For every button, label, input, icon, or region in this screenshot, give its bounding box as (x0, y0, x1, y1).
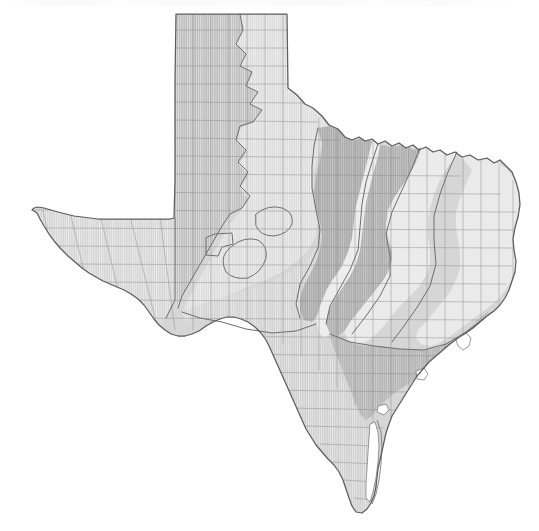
texas-map-container: Texas Vegetational Regions Map Grayscale… (0, 0, 539, 531)
texas-map-svg (0, 0, 539, 531)
